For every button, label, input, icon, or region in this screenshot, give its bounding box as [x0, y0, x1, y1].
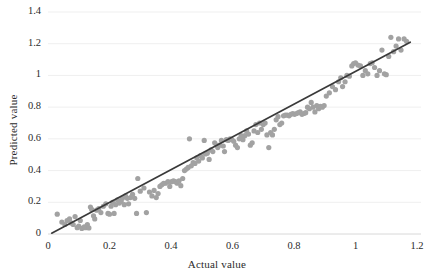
scatter-point — [126, 201, 131, 206]
scatter-point — [322, 103, 327, 108]
scatter-point — [202, 138, 207, 143]
x-tick-label: 1.2 — [397, 240, 434, 251]
scatter-point — [327, 90, 332, 95]
scatter-point — [384, 72, 389, 77]
x-tick-label: 1 — [336, 240, 376, 251]
scatter-point — [235, 145, 240, 150]
scatter-point — [112, 211, 117, 216]
scatter-point — [246, 132, 251, 137]
scatter-point — [155, 191, 160, 196]
scatter-point — [333, 87, 338, 92]
x-axis-title: Actual value — [0, 258, 434, 270]
x-tick-label: 0.2 — [90, 240, 130, 251]
scatter-point — [372, 65, 377, 70]
scatter-point — [250, 140, 255, 145]
scatter-point — [144, 210, 149, 215]
scatter-point — [266, 145, 271, 150]
scatter-point — [374, 73, 379, 78]
scatter-point — [207, 157, 212, 162]
scatter-point — [122, 202, 127, 207]
scatter-point — [360, 73, 365, 78]
scatter-point — [365, 71, 370, 76]
scatter-point — [275, 114, 280, 119]
data-points — [55, 35, 410, 231]
y-tick-label: 0 — [11, 227, 41, 238]
trend-line — [52, 42, 411, 233]
scatter-point — [187, 136, 192, 141]
scatter-point — [210, 149, 215, 154]
y-tick-label: 1.2 — [11, 37, 41, 48]
scatter-chart: 00.20.40.60.811.21.4 00.20.40.60.811.2 A… — [0, 0, 434, 278]
x-tick-label: 0.8 — [274, 240, 314, 251]
x-tick-label: 0.4 — [151, 240, 191, 251]
scatter-point — [279, 120, 284, 125]
scatter-point — [259, 127, 264, 132]
x-tick-label: 0 — [28, 240, 68, 251]
scatter-point — [141, 185, 146, 190]
scatter-point — [303, 110, 308, 115]
scatter-point — [86, 225, 91, 230]
scatter-point — [270, 132, 275, 137]
y-tick-label: 1.4 — [11, 5, 41, 16]
y-axis-title: Predicted value — [7, 70, 19, 190]
scatter-point — [132, 196, 137, 201]
scatter-point — [98, 210, 103, 215]
scatter-point — [134, 211, 139, 216]
scatter-point — [92, 216, 97, 221]
scatter-point — [107, 212, 112, 217]
scatter-point — [167, 184, 172, 189]
plot-canvas — [0, 0, 434, 278]
scatter-point — [309, 100, 314, 105]
gridlines — [48, 12, 421, 234]
scatter-point — [178, 183, 183, 188]
scatter-point — [342, 79, 347, 84]
scatter-point — [396, 36, 401, 41]
scatter-point — [388, 35, 393, 40]
scatter-point — [55, 212, 60, 217]
scatter-point — [379, 47, 384, 52]
y-tick-label: 0.2 — [11, 195, 41, 206]
scatter-point — [272, 127, 277, 132]
scatter-point — [135, 176, 140, 181]
x-tick-label: 0.6 — [213, 240, 253, 251]
scatter-point — [221, 143, 226, 148]
scatter-point — [222, 149, 227, 154]
scatter-point — [340, 84, 345, 89]
scatter-point — [180, 176, 185, 181]
scatter-point — [72, 214, 77, 219]
scatter-point — [377, 68, 382, 73]
trend-line-segment — [52, 42, 411, 233]
